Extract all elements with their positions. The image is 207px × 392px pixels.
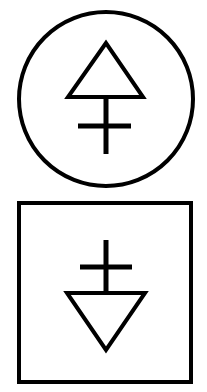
square-symbol (19, 203, 191, 382)
down-triangle-icon (67, 293, 145, 350)
symbols-diagram (0, 0, 207, 392)
up-triangle-icon (68, 43, 143, 97)
circle-symbol (19, 12, 193, 186)
